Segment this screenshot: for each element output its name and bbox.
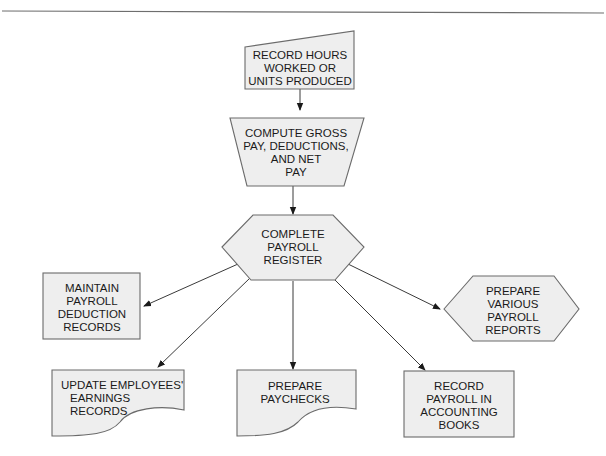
node-label-line: PREPARE <box>268 380 322 392</box>
node-label-line: REGISTER <box>264 254 323 266</box>
node-label-line: COMPUTE GROSS <box>245 127 348 139</box>
edge-register-to-prepare-reports <box>348 264 440 309</box>
node-label-line: PAY <box>285 166 307 178</box>
node-label-line: VARIOUS <box>488 298 539 310</box>
node-label-line: PAYCHECKS <box>260 393 330 405</box>
edge-register-to-maintain-deduction <box>144 264 238 306</box>
node-label-line: AND NET <box>271 153 321 165</box>
node-update-earnings: UPDATE EMPLOYEES' EARNINGS RECORDS <box>52 370 184 436</box>
node-label-line: WORKED OR <box>264 62 336 74</box>
edge-register-to-record-books <box>335 280 425 370</box>
node-label-line: RECORD <box>434 380 484 392</box>
node-label-line: UNITS PRODUCED <box>248 75 352 87</box>
node-label-line: ACCOUNTING <box>420 406 497 418</box>
node-label-line: COMPLETE <box>261 228 325 240</box>
node-label-line: PAY, DEDUCTIONS, <box>243 140 348 152</box>
node-label-line: PAYROLL <box>487 311 539 323</box>
header-rule <box>2 11 604 13</box>
node-maintain-deduction: MAINTAIN PAYROLL DEDUCTION RECORDS <box>43 273 140 339</box>
node-record-hours: RECORD HOURS WORKED OR UNITS PRODUCED <box>245 31 354 89</box>
node-prepare-paychecks: PREPARE PAYCHECKS <box>237 370 356 436</box>
node-complete-register: COMPLETE PAYROLL REGISTER <box>222 215 364 280</box>
node-label-line: PAYROLL IN <box>426 393 492 405</box>
node-label-line: PREPARE <box>486 285 540 297</box>
payroll-flowchart: RECORD HOURS WORKED OR UNITS PRODUCED CO… <box>0 0 606 456</box>
node-label-line: DEDUCTION <box>58 308 126 320</box>
node-label-line: REPORTS <box>485 324 541 336</box>
node-label-line: PAYROLL <box>267 241 319 253</box>
node-label-line: RECORDS <box>70 405 128 417</box>
node-label-line: PAYROLL <box>66 295 118 307</box>
node-label-line: EARNINGS <box>70 392 130 404</box>
node-compute-pay: COMPUTE GROSS PAY, DEDUCTIONS, AND NET P… <box>230 118 364 186</box>
node-label-line: RECORD HOURS <box>253 49 348 61</box>
node-prepare-reports: PREPARE VARIOUS PAYROLL REPORTS <box>444 276 579 341</box>
node-record-books: RECORD PAYROLL IN ACCOUNTING BOOKS <box>404 371 514 437</box>
node-label-line: RECORDS <box>63 321 121 333</box>
node-label-line: BOOKS <box>439 419 480 431</box>
node-label-line: MAINTAIN <box>65 282 119 294</box>
edge-register-to-update-earnings <box>158 278 250 367</box>
node-label-line: UPDATE EMPLOYEES' <box>61 379 183 391</box>
